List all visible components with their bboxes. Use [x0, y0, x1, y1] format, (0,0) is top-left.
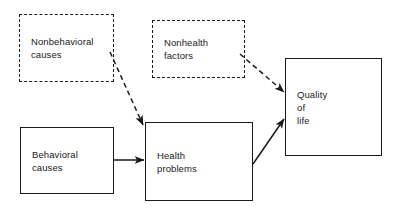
edge-nonhealth-to-quality [240, 54, 284, 92]
node-behavioral-causes [20, 127, 114, 194]
node-nonbehavioral-causes [19, 14, 114, 82]
diagram-canvas: Nonbehavioral causes Nonhealth factors B… [0, 0, 395, 214]
node-nonhealth-factors [152, 20, 245, 78]
node-health-problems [145, 122, 253, 201]
node-quality-of-life [285, 58, 382, 156]
edge-health-to-quality [253, 119, 284, 164]
edge-nonbehavioral-to-health [110, 52, 143, 125]
